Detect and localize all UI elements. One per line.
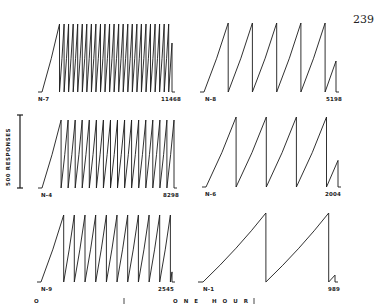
y-scale-bar: [17, 115, 23, 188]
subject-label-mr: N-6: [205, 191, 216, 197]
record-trace-n-4: [38, 120, 177, 188]
record-trace-n-6: [202, 117, 341, 187]
record-trace-n-1: [198, 213, 338, 282]
subject-label-ml: N-4: [41, 192, 52, 198]
record-trace-n-7: [38, 24, 175, 92]
record-trace-n-9: [37, 215, 175, 282]
subject-label-tr: N-8: [205, 96, 216, 102]
total-label-br: 989: [328, 286, 340, 292]
subject-label-tl: N-7: [38, 96, 49, 102]
total-label-tr: 5198: [326, 96, 342, 102]
time-scale-label: ONE HOUR: [173, 298, 254, 304]
time-scale-start: O: [34, 298, 39, 304]
record-trace-n-8: [200, 23, 339, 92]
y-axis-label: 500 RESPONSES: [5, 128, 11, 186]
total-label-mr: 2004: [325, 191, 341, 197]
cumulative-records-figure: [0, 0, 390, 306]
subject-label-br: N-1: [203, 286, 214, 292]
subject-label-bl: N-9: [41, 286, 52, 292]
total-label-bl: 2545: [158, 286, 174, 292]
total-label-tl: 11468: [161, 96, 181, 102]
total-label-ml: 8298: [163, 192, 179, 198]
